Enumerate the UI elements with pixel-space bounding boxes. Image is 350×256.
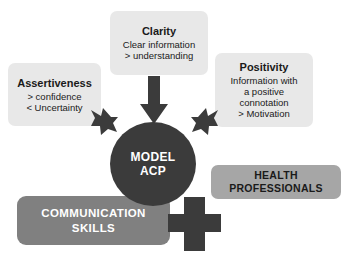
- card-clarity-line-2: > understanding: [125, 50, 193, 61]
- card-assertiveness-title: Assertiveness: [17, 77, 92, 90]
- banner-communication-line-1: COMMUNICATION: [41, 206, 146, 221]
- banner-health-professionals: HEALTH PROFESSIONALS: [211, 165, 341, 199]
- model-acp-line-2: ACP: [140, 164, 166, 178]
- diagram-canvas: Clarity Clear information > understandin…: [0, 0, 350, 256]
- model-acp-circle: MODEL ACP: [110, 122, 196, 206]
- positivity-arrow-icon: [190, 107, 220, 141]
- model-acp-line-1: MODEL: [131, 150, 176, 164]
- card-positivity-line-4: > Motivation: [238, 108, 290, 119]
- assertiveness-arrow-icon: [89, 107, 119, 141]
- card-positivity-line-2: a positive: [244, 86, 284, 97]
- card-positivity-line-1: Information with: [230, 75, 297, 86]
- card-clarity-line-1: Clear information: [123, 39, 195, 50]
- card-clarity: Clarity Clear information > understandin…: [110, 11, 208, 75]
- card-positivity: Positivity Information with a positive c…: [215, 53, 313, 127]
- card-clarity-title: Clarity: [142, 25, 176, 38]
- plus-symbol-icon: [168, 197, 221, 251]
- card-assertiveness: Assertiveness > confidence < Uncertainty: [8, 63, 101, 126]
- card-assertiveness-line-2: < Uncertainty: [26, 102, 82, 113]
- banner-health-line-2: PROFESSIONALS: [229, 182, 323, 195]
- plus-horizontal-bar: [168, 214, 221, 232]
- banner-health-line-1: HEALTH: [254, 169, 298, 182]
- card-positivity-title: Positivity: [240, 61, 289, 74]
- card-positivity-line-3: connotation: [239, 97, 288, 108]
- card-assertiveness-line-1: > confidence: [27, 91, 81, 102]
- banner-communication-line-2: SKILLS: [72, 221, 115, 236]
